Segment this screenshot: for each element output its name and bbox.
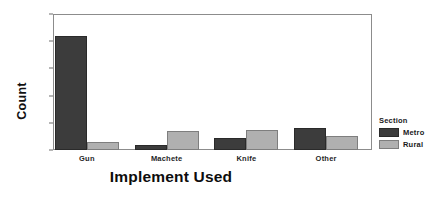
legend: Section MetroRural	[379, 116, 443, 152]
x-tick-label: Other	[316, 154, 337, 163]
x-tick-label: Knife	[237, 154, 257, 163]
bar-gun-metro	[55, 36, 87, 150]
legend-entries: MetroRural	[379, 128, 443, 149]
bar-gun-rural	[87, 142, 119, 150]
legend-label: Metro	[403, 128, 424, 137]
legend-label: Rural	[403, 140, 423, 149]
bar-knife-rural	[246, 130, 278, 150]
bar-other-rural	[326, 136, 358, 150]
legend-item-metro: Metro	[379, 128, 443, 137]
y-axis-title: Count	[15, 51, 29, 151]
x-tick-label: Gun	[79, 154, 95, 163]
x-axis-title: Implement Used	[46, 168, 296, 186]
legend-item-rural: Rural	[379, 140, 443, 149]
x-tick-label: Machete	[151, 154, 182, 163]
x-tick-labels: GunMacheteKnifeOther	[53, 150, 372, 168]
bars-layer	[53, 14, 372, 150]
bar-chart: Count 01020304050 GunMacheteKnifeOther I…	[0, 0, 444, 201]
bar-machete-rural	[167, 131, 199, 150]
legend-swatch-metro	[379, 128, 399, 137]
legend-title: Section	[379, 116, 443, 125]
bar-knife-metro	[214, 138, 246, 150]
bar-other-metro	[294, 128, 326, 150]
legend-swatch-rural	[379, 140, 399, 149]
